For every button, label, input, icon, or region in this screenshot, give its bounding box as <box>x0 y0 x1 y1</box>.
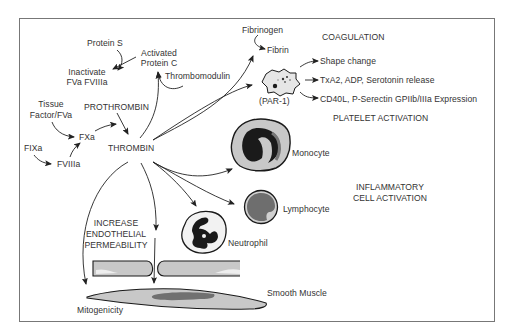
label-activated-protein-c-1: Activated <box>136 48 182 58</box>
label-neutrophil: Neutrophil <box>228 238 268 248</box>
heading-platelet-activation: PLATELET ACTIVATION <box>333 113 428 123</box>
arrow-platelet-to-expression <box>300 92 318 98</box>
label-par-1: (PAR-1) <box>259 96 290 106</box>
arrow-fviiia-to-fxa <box>70 143 80 157</box>
label-inactivate-1: Inactivate <box>64 67 110 77</box>
label-thrombin: THROMBIN <box>108 143 154 153</box>
label-fixa: FIXa <box>24 143 42 153</box>
label-protein-s: Protein S <box>87 38 123 48</box>
arrow-apc-to-inactivate <box>113 57 136 69</box>
label-activated-protein-c-2: Protein C <box>136 58 182 68</box>
label-fxa: FXa <box>79 132 95 142</box>
heading-inflammatory-2: CELL ACTIVATION <box>336 193 444 203</box>
label-mitogenicity: Mitogenicity <box>77 305 123 315</box>
neutrophil-icon <box>182 212 226 254</box>
arrow-platelet-to-shape-change <box>300 61 318 67</box>
label-monocyte: Monocyte <box>292 148 330 158</box>
label-expression: CD40L, P-Serectin GPIIb/IIIa Expression <box>320 94 477 104</box>
arrow-permeability-to-smooth-muscle <box>154 238 155 283</box>
platelet-icon <box>262 69 300 96</box>
arrow-fibrinogen-to-fibrin <box>255 35 265 49</box>
lymphocyte-icon <box>245 191 278 224</box>
label-smooth-muscle: Smooth Muscle <box>267 288 327 298</box>
label-thrombomodulin: Thrombomodulin <box>165 71 230 81</box>
endothelial-cell-left <box>93 261 153 276</box>
monocyte-icon <box>231 119 290 171</box>
heading-permeability-1: INCREASE <box>80 218 152 228</box>
label-inactivate-2: FVa FVIIIa <box>64 77 110 87</box>
heading-permeability-2: ENDOTHELIAL <box>80 229 152 239</box>
label-prothrombin: PROTHROMBIN <box>84 102 149 112</box>
heading-inflammatory-1: INFLAMMATORY <box>336 182 444 192</box>
label-fibrin: Fibrin <box>267 45 289 55</box>
heading-coagulation: COAGULATION <box>322 32 384 42</box>
endothelial-cell-right <box>158 261 240 276</box>
arrow-thrombin-to-neutrophil <box>153 162 196 206</box>
label-release: TxA2, ADP, Serotonin release <box>320 75 434 85</box>
label-tissue-factor-1: Tissue <box>28 99 74 109</box>
arrow-fixa-to-fviiia <box>34 155 51 164</box>
thrombin-diagram: Protein S Activated Protein C Inactivate… <box>0 0 513 332</box>
label-tissue-factor-2: Factor/FVa <box>26 110 76 120</box>
arrow-prothrombin-to-thrombin <box>117 113 128 134</box>
label-shape-change: Shape change <box>320 56 376 66</box>
arrow-tissue-factor-to-fxa <box>52 122 74 137</box>
arrow-fxa-to-prothrombin <box>95 124 116 131</box>
label-fviiia: FVIIIa <box>57 159 80 169</box>
label-lymphocyte: Lymphocyte <box>283 204 330 214</box>
label-fibrinogen: Fibrinogen <box>242 25 283 35</box>
heading-permeability-3: PERMEABILITY <box>80 240 152 250</box>
